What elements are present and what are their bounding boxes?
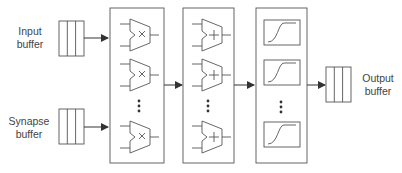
input-buffer-label: Input buffer [8, 25, 52, 51]
sigmoid-unit [264, 122, 300, 147]
adder-stage [183, 8, 234, 163]
multiplier-stage [110, 8, 164, 163]
input-buffer [59, 21, 84, 56]
ellipsis-icon [207, 100, 210, 113]
output-buffer [326, 67, 351, 102]
neural-accelerator-diagram [0, 0, 402, 173]
synapse-buffer [59, 109, 84, 144]
synapse-buffer-label: Synapse buffer [2, 115, 56, 141]
sigmoid-unit [264, 20, 300, 45]
ellipsis-icon [138, 100, 141, 113]
sigmoid-unit [264, 60, 300, 85]
activation-stage [256, 8, 307, 163]
output-buffer-label: Output buffer [356, 72, 400, 98]
ellipsis-icon [280, 101, 283, 114]
